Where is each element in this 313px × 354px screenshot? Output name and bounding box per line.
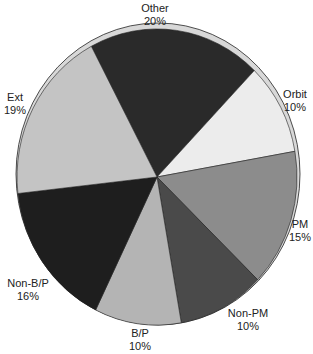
slice-label-percent: 10% <box>129 340 151 353</box>
slice-label-b-p: B/P10% <box>129 327 151 353</box>
slice-label-non-pm: Non-PM10% <box>228 307 268 333</box>
slice-label-orbit: Orbit10% <box>283 88 307 114</box>
slice-label-non-b-p: Non-B/P16% <box>7 277 49 303</box>
slice-label-name: Non-PM <box>228 307 268 320</box>
slice-label-name: Orbit <box>283 88 307 101</box>
slice-label-percent: 10% <box>283 101 307 114</box>
slice-label-ext: Ext19% <box>4 91 26 117</box>
slice-label-name: Non-B/P <box>7 277 49 290</box>
slice-label-percent: 19% <box>4 104 26 117</box>
slice-label-percent: 10% <box>228 320 268 333</box>
slice-label-name: Other <box>141 2 169 15</box>
slice-label-name: B/P <box>129 327 151 340</box>
slice-label-name: PM <box>289 218 311 231</box>
slice-label-name: Ext <box>4 91 26 104</box>
slice-label-percent: 15% <box>289 231 311 244</box>
slice-label-pm: PM15% <box>289 218 311 244</box>
slice-label-percent: 20% <box>141 15 169 28</box>
slice-label-percent: 16% <box>7 290 49 303</box>
slice-label-other: Other20% <box>141 2 169 28</box>
